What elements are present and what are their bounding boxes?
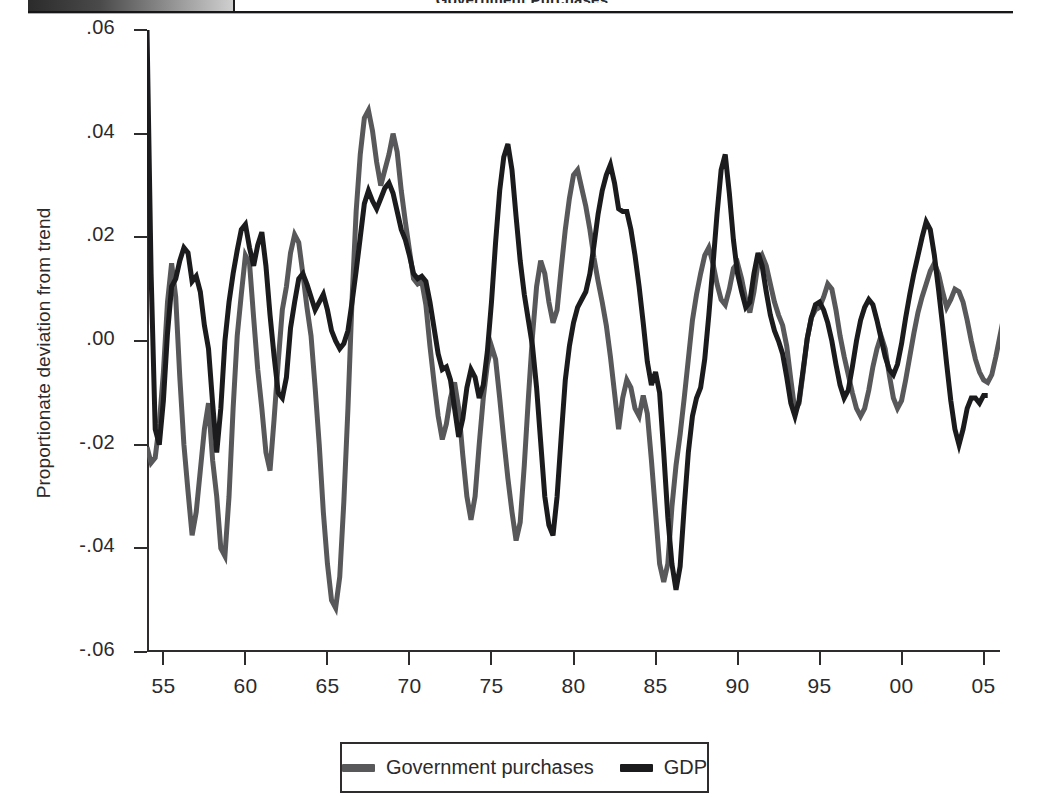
x-tick xyxy=(819,652,821,665)
page-header-strip: Government Purchases xyxy=(0,0,1042,24)
y-tick: -.06 xyxy=(134,651,147,653)
y-tick: .06 xyxy=(134,29,147,31)
x-tick-label: 95 xyxy=(808,674,832,698)
line-swatch-icon xyxy=(342,764,375,772)
x-tick xyxy=(737,652,739,665)
x-tick xyxy=(655,652,657,665)
line-swatch-icon xyxy=(620,764,653,772)
y-tick-label: .04 xyxy=(86,120,115,143)
x-tick-label: 85 xyxy=(644,674,668,698)
legend-label: Government purchases xyxy=(386,756,594,779)
x-tick xyxy=(983,652,985,665)
x-tick xyxy=(490,652,492,665)
vertical-rule-icon xyxy=(233,0,235,11)
y-tick: .00 xyxy=(134,340,147,342)
y-tick: -.04 xyxy=(134,547,147,549)
chart-figure: Proportionate deviation from trend .06.0… xyxy=(0,24,1042,805)
x-tick xyxy=(408,652,410,665)
x-tick xyxy=(901,652,903,665)
series-lines xyxy=(147,30,1000,652)
x-tick-label: 70 xyxy=(397,674,421,698)
x-tick-label: 55 xyxy=(151,674,175,698)
y-tick-label: -.02 xyxy=(79,431,115,454)
x-tick xyxy=(326,652,328,665)
y-tick-label: .00 xyxy=(86,327,115,350)
y-axis-title: Proportionate deviation from trend xyxy=(33,123,55,583)
x-tick xyxy=(244,652,246,665)
y-tick-label: -.04 xyxy=(79,535,115,558)
y-tick-label: -.06 xyxy=(79,638,115,661)
legend-item: Government purchases xyxy=(342,756,594,779)
x-tick-label: 80 xyxy=(562,674,586,698)
header-divider-rule-shadow xyxy=(28,13,1013,14)
x-tick xyxy=(162,652,164,665)
x-tick-label: 75 xyxy=(479,674,503,698)
page-title: Government Purchases xyxy=(242,0,802,3)
y-tick-label: .02 xyxy=(86,224,115,247)
legend-label: GDP xyxy=(664,756,707,779)
y-tick: .04 xyxy=(134,133,147,135)
y-tick: .02 xyxy=(134,236,147,238)
y-tick-label: .06 xyxy=(86,16,115,39)
x-tick-label: 60 xyxy=(233,674,257,698)
x-tick-label: 05 xyxy=(972,674,996,698)
chart-legend: Government purchasesGDP xyxy=(340,742,709,793)
header-color-swatch xyxy=(28,0,233,11)
legend-item: GDP xyxy=(620,756,707,779)
x-tick-label: 00 xyxy=(890,674,914,698)
plot-area: .06.04.02.00-.02-.04-.06 556065707580859… xyxy=(147,30,1000,652)
x-tick-label: 65 xyxy=(315,674,339,698)
y-tick: -.02 xyxy=(134,444,147,446)
series-line-gdp xyxy=(147,30,988,590)
x-tick xyxy=(573,652,575,665)
x-tick-label: 90 xyxy=(726,674,750,698)
